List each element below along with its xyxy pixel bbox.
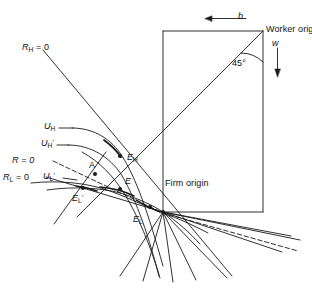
b-arrow-head [205,16,212,21]
b-label-text: b [238,11,243,21]
point-marker-eh [118,154,122,158]
uh-subscript: H [51,125,56,132]
worker-origin-text: Worker origin [266,24,312,34]
uh-label: UH [44,121,55,131]
rh-zero-subscript: H [29,46,34,53]
ul-prime-symbol: U [43,171,50,181]
point-a-text: A [89,160,95,170]
point-e-label: E [125,176,131,186]
firm-origin-text: Firm origin [165,178,209,188]
uh-symbol: U [44,121,51,131]
ul-prime-mark: ' [53,171,55,180]
rl-zero-label: RL = 0 [3,172,29,182]
angle-45-text: 45° [232,58,246,68]
w-arrow-head [275,69,280,77]
angle-45-label: 45° [232,58,246,68]
uh-prime-symbol: U [41,138,48,148]
ul-prime-label: UL' [43,171,55,181]
point-marker-el-prime [81,186,85,190]
fan-line-6 [143,212,163,281]
uh-prime-mark: ' [52,138,54,147]
uh-prime-label: UH' [41,138,54,148]
point-marker-e [118,187,122,191]
point-eh-subscript: H [133,156,138,163]
rl-zero-equals: = 0 [13,172,29,182]
figure-container: Worker origin b w 45° Firm origin RH = 0… [0,0,312,290]
point-el-label: EL [133,214,143,224]
curve-uh-prime [68,145,159,276]
point-a-label: A [89,160,95,170]
firm-origin-label: Firm origin [165,178,209,189]
tangency-emphasis-eh [104,140,121,157]
fan-line-2 [163,212,282,252]
rh-zero-label: RH = 0 [22,42,49,52]
point-marker-firm-origin [161,210,165,214]
r-zero-text: R = 0 [12,155,34,165]
rh-zero-equals: = 0 [33,42,49,52]
tangency-emphasis-el [136,200,160,212]
point-el-prime-label: EL' [72,193,83,203]
worker-origin-label: Worker origin [266,24,312,35]
point-eh-label: EH [127,152,138,162]
rl-zero-symbol: R [3,172,10,182]
line-rh-zero [43,50,232,276]
point-el-prime-mark: ' [82,193,84,202]
rl-zero-subscript: L [10,176,14,183]
curve-uh-steep [82,152,160,278]
b-axis-label: b [238,11,243,21]
w-label-text: w [272,38,279,48]
rh-zero-symbol: R [22,42,29,52]
leader-ul-prime [63,178,77,180]
w-axis-label: w [272,38,279,48]
r-zero-label: R = 0 [12,155,34,165]
point-marker-el [148,205,152,209]
point-el-subscript: L [139,218,143,225]
point-e-text: E [125,176,131,186]
point-marker-a [93,172,97,176]
